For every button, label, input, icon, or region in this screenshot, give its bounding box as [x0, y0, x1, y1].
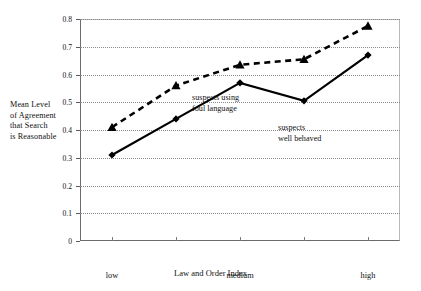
x-axis-label: Law and Order Index — [0, 268, 421, 278]
series-line-1 — [112, 26, 368, 127]
chart-figure: Mean Level of Agreement that Search is R… — [0, 0, 421, 291]
series-layer — [80, 19, 400, 241]
y-tick-label: 0.6 — [46, 71, 72, 80]
series-label-well-behaved: suspects well behaved — [278, 123, 321, 144]
y-tick-label: 0.8 — [46, 15, 72, 24]
y-tick-label: 0 — [46, 237, 72, 246]
y-tick-label: 0.2 — [46, 182, 72, 191]
data-point-marker — [235, 60, 244, 68]
y-tick-label: 0.1 — [46, 209, 72, 218]
y-tick-label: 0.3 — [46, 154, 72, 163]
y-tick-label: 0.7 — [46, 43, 72, 52]
series-line-2 — [112, 55, 368, 155]
series-label-foul-language: suspects using foul language — [192, 93, 239, 114]
y-tick-label: 0.5 — [46, 98, 72, 107]
data-point-marker — [171, 81, 180, 89]
y-tick-mark — [76, 241, 80, 242]
y-tick-label: 0.4 — [46, 126, 72, 135]
y-axis-label-line-2: of Agreement — [10, 111, 76, 122]
plot-area: 00.10.20.30.40.50.60.70.8 lowmediumhigh … — [80, 19, 400, 241]
data-point-marker — [363, 21, 372, 29]
